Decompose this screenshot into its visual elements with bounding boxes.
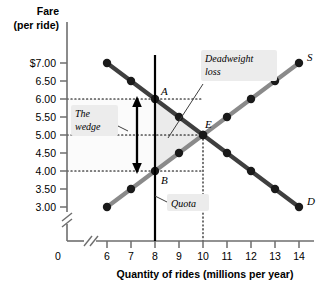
quota-leader [155, 196, 167, 202]
x-tick-label: 10 [197, 250, 209, 262]
y-tick-label: 3.50 [36, 183, 57, 195]
chart-figure: Deadweight loss The wedge Quota A B E S … [0, 0, 324, 286]
x-tick-label: 13 [269, 250, 281, 262]
y-tick-label: 6.50 [36, 75, 57, 87]
point-A-label: A [160, 85, 168, 97]
wedge-label-line2: wedge [75, 121, 101, 132]
point-B-label: B [161, 174, 168, 186]
wedge-label-line1: The [75, 108, 91, 119]
x-tick-label: 6 [104, 250, 110, 262]
y-axis-title-line2: (per ride) [13, 19, 59, 31]
x-tick-label: 11 [222, 250, 233, 262]
supply-curve-label: S [307, 51, 313, 63]
x-tick-label: 8 [152, 250, 158, 262]
x-axis-tick-labels: 6 7 8 9 10 11 12 13 14 [104, 250, 305, 262]
demand-curve-label: D [306, 195, 315, 207]
y-tick-label: $7.00 [30, 57, 56, 69]
y-tick-label: 3.00 [36, 201, 57, 213]
y-axis-title-line1: Fare [37, 5, 59, 17]
y-axis-tick-labels: $7.00 6.50 6.00 5.50 5.00 4.50 4.00 3.50… [30, 57, 56, 213]
x-tick-label: 7 [128, 250, 134, 262]
y-tick-label: 6.00 [36, 93, 57, 105]
x-tick-label: 9 [176, 250, 182, 262]
x-tick-label: 14 [293, 250, 305, 262]
point-E-label: E [204, 118, 212, 130]
origin-label: 0 [55, 250, 61, 262]
y-tick-label: 5.50 [36, 111, 57, 123]
x-axis-ticks [107, 241, 299, 248]
quota-label: Quota [171, 198, 196, 209]
x-tick-label: 12 [245, 250, 257, 262]
y-axis-ticks [60, 63, 67, 207]
deadweight-loss-label-line2: loss [205, 66, 221, 77]
x-axis-title: Quantity of rides (millions per year) [117, 268, 294, 280]
y-tick-label: 4.50 [36, 147, 57, 159]
deadweight-loss-label-line1: Deadweight [204, 53, 254, 64]
quota-deadweight-loss-chart: Deadweight loss The wedge Quota A B E S … [0, 0, 324, 286]
x-axis-break-icon [84, 236, 98, 246]
y-tick-label: 4.00 [36, 165, 57, 177]
y-tick-label: 5.00 [36, 129, 57, 141]
